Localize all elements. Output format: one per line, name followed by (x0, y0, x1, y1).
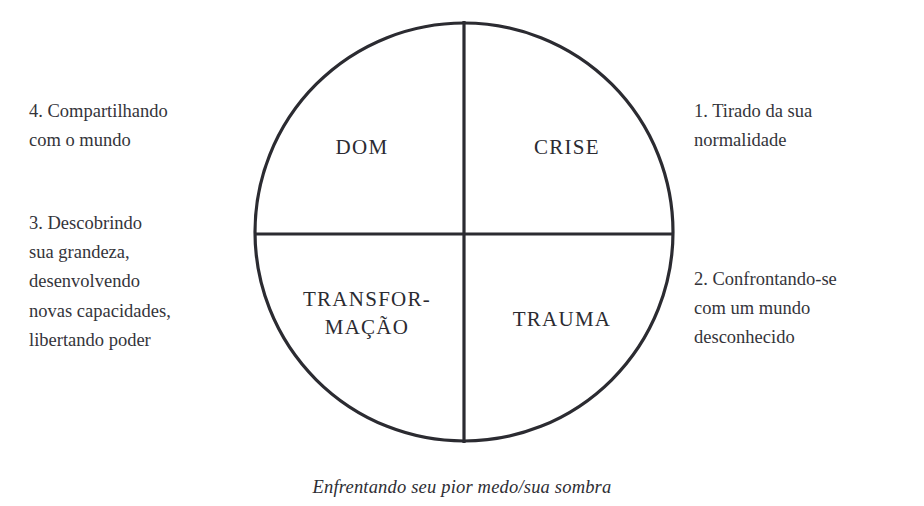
annotation-step-4: 4. Compartilhando com o mundo (29, 97, 274, 155)
quadrant-label-transformacao: TRANSFOR- MAÇÃO (272, 286, 462, 341)
annotation-step-1: 1. Tirado da sua normalidade (694, 97, 919, 155)
annotation-step-3: 3. Descobrindo sua grandeza, desenvolven… (29, 209, 274, 355)
quadrant-label-dom: DOM (282, 134, 442, 162)
quadrant-label-trauma: TRAUMA (482, 306, 642, 334)
diagram-caption: Enfrentando seu pior medo/sua sombra (0, 477, 924, 498)
quadrant-label-crise: CRISE (487, 134, 647, 162)
hero-journey-wheel-diagram: DOM CRISE TRANSFOR- MAÇÃO TRAUMA 1. Tira… (0, 0, 924, 506)
annotation-step-2: 2. Confrontando-se com um mundo desconhe… (694, 265, 919, 353)
